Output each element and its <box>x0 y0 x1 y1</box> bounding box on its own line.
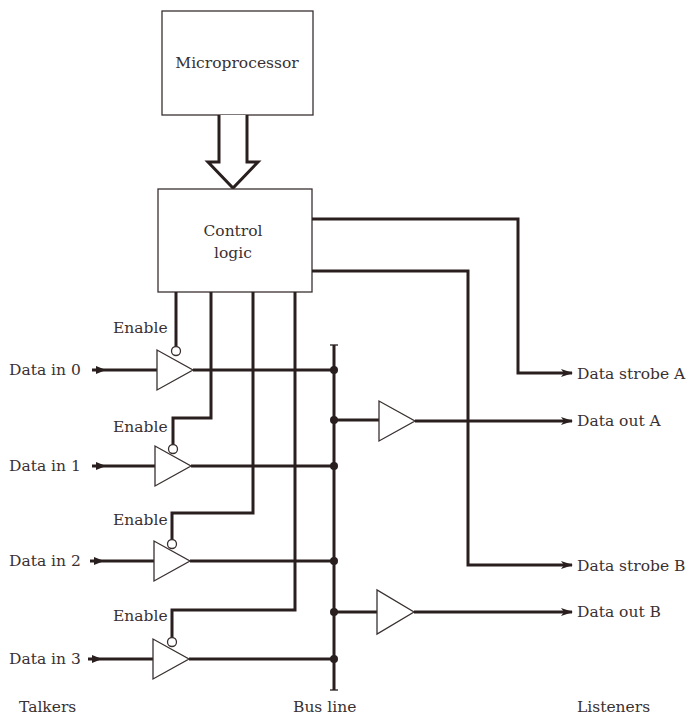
enable-label-1: Enable <box>113 418 168 436</box>
strobe-b-wire <box>312 271 572 565</box>
enable-label-3: Enable <box>113 607 168 625</box>
strobe-a-wire <box>312 219 572 373</box>
data-in-1-arrow-icon <box>96 462 106 470</box>
talker-buffer-3 <box>153 638 189 680</box>
bus-line-caption: Bus line <box>293 698 356 716</box>
data-strobe-b-label: Data strobe B <box>577 557 685 575</box>
data-out-a-label: Data out A <box>577 412 662 430</box>
talker-buffer-1 <box>155 445 191 487</box>
microprocessor-block: Microprocessor <box>162 11 313 115</box>
listeners-caption: Listeners <box>577 698 650 716</box>
junction-dot-icon <box>330 416 338 424</box>
control-logic-label-line1: Control <box>203 222 262 240</box>
data-in-2-label: Data in 2 <box>9 552 81 570</box>
data-in-3-label: Data in 3 <box>9 650 81 668</box>
talker-buffer-0 <box>157 347 193 391</box>
data-in-1-label: Data in 1 <box>9 457 81 475</box>
talker-buffer-2 <box>154 540 190 582</box>
data-strobe-a-label: Data strobe A <box>577 365 686 383</box>
data-in-3-arrow-icon <box>92 655 102 663</box>
enable-label-0: Enable <box>113 319 168 337</box>
enable-label-2: Enable <box>113 511 168 529</box>
inverting-enable-bubble-icon <box>168 540 177 549</box>
inverting-enable-bubble-icon <box>168 638 177 647</box>
listener-buffer-a <box>379 401 415 441</box>
junction-dot-icon <box>330 557 338 565</box>
talkers-caption: Talkers <box>19 698 76 716</box>
hollow-bus-arrow <box>208 115 258 188</box>
microprocessor-label: Microprocessor <box>175 54 299 72</box>
data-in-0-label: Data in 0 <box>9 361 81 379</box>
data-out-b-label: Data out B <box>577 603 661 621</box>
listener-buffer-b <box>377 590 414 634</box>
bus-system-diagram: Microprocessor Control logic <box>0 0 700 723</box>
control-logic-block: Control logic <box>158 189 312 292</box>
inverting-enable-bubble-icon <box>169 445 178 454</box>
data-in-0-arrow-icon <box>96 366 106 374</box>
junction-dot-icon <box>330 655 338 663</box>
inverting-enable-bubble-icon <box>172 347 181 356</box>
junction-dot-icon <box>330 608 338 616</box>
data-in-2-arrow-icon <box>94 557 104 565</box>
control-logic-label-line2: logic <box>214 244 252 262</box>
junction-dot-icon <box>330 366 338 374</box>
junction-dot-icon <box>330 462 338 470</box>
